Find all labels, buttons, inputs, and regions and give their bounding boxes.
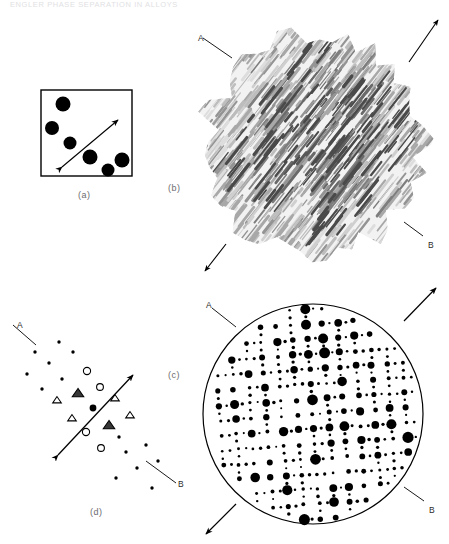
fundamental-spot [40, 387, 43, 390]
direction-label-a-panel-d: A [17, 320, 23, 330]
fundamental-spot [47, 361, 50, 364]
fundamental-spot [25, 372, 28, 375]
fundamental-spot [135, 466, 138, 469]
open-triangle-reflection [53, 397, 62, 403]
fundamental-spot [124, 450, 127, 453]
open-triangle-reflection [68, 415, 77, 421]
fundamental-spot [71, 350, 74, 353]
fundamental-spot [156, 459, 159, 462]
panel-d-label: (d) [90, 507, 103, 517]
direction-label-b-panel-c: B [429, 505, 435, 515]
direction-label-a-panel-c: A [206, 300, 212, 310]
shaded-triangle-reflection [72, 388, 84, 396]
fundamental-spot [57, 340, 60, 343]
fundamental-spot [150, 486, 153, 489]
open-circle-reflection [82, 428, 89, 435]
panel-d-direction-arrow [58, 375, 133, 455]
open-triangle-reflection [126, 412, 135, 418]
direction-label-b-panel-b: B [428, 240, 434, 250]
direction-label-b-panel-d: B [178, 479, 184, 489]
fundamental-spot [60, 377, 63, 380]
panel-d-graphic [0, 0, 449, 544]
fundamental-spot [144, 443, 147, 446]
open-circle-reflection [83, 367, 90, 374]
figure-plate: ENGLER PHASE SEPARATION IN ALLOYS (a) (b… [0, 0, 449, 544]
open-circle-reflection [97, 384, 104, 391]
panel-d-group [13, 325, 176, 490]
direction-leader-line [146, 461, 176, 483]
shaded-triangle-reflection [103, 420, 115, 428]
fundamental-spot [33, 350, 36, 353]
direction-label-a-panel-b: A [198, 33, 204, 43]
fundamental-spot [114, 476, 117, 479]
panel-d-origin-spot [90, 405, 97, 412]
fundamental-spot [117, 435, 120, 438]
open-circle-reflection [98, 445, 105, 452]
